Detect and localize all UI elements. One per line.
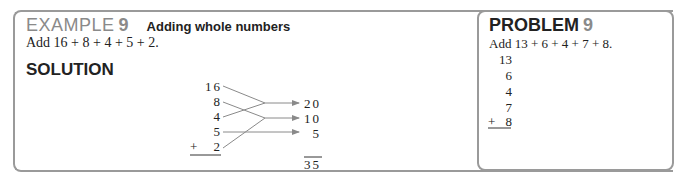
problem-addend-6: 6 [496, 68, 512, 84]
problem-addend-4: 4 [496, 84, 512, 100]
problem-statement: Add 13 + 6 + 4 + 7 + 8. [489, 36, 612, 52]
problem-plus-sign: + [488, 114, 498, 130]
problem-label: PROBLEM [489, 15, 579, 35]
problem-addend-13: 13 [496, 52, 512, 68]
problem-heading: PROBLEM 9 [489, 15, 593, 36]
problem-number: 9 [583, 15, 593, 35]
problem-addend-8: 8 [496, 114, 512, 130]
